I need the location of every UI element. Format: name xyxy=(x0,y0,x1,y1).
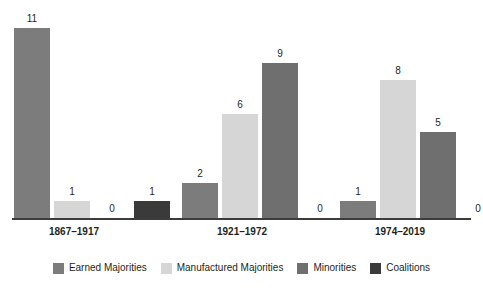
bar-value-label: 6 xyxy=(222,100,258,110)
legend-label: Manufactured Majorities xyxy=(177,262,284,274)
bar[interactable] xyxy=(420,132,456,218)
bar-value-label: 1 xyxy=(340,187,376,197)
bar[interactable] xyxy=(340,201,376,218)
bar-value-label: 1 xyxy=(134,187,170,197)
bar-slot: 5 xyxy=(420,0,456,218)
bar-slot: 0 xyxy=(460,0,483,218)
legend-item-0[interactable]: Earned Majorities xyxy=(53,262,147,274)
bar-value-label: 0 xyxy=(460,204,483,214)
bar-slot: 11 xyxy=(14,0,50,218)
legend-swatch-icon xyxy=(370,263,381,274)
bar-value-label: 0 xyxy=(94,204,130,214)
legend-swatch-icon xyxy=(161,263,172,274)
bar-value-label: 0 xyxy=(302,204,338,214)
bar-value-label: 1 xyxy=(54,187,90,197)
legend-item-2[interactable]: Minorities xyxy=(297,262,356,274)
bar-slot: 1 xyxy=(134,0,170,218)
legend-swatch-icon xyxy=(53,263,64,274)
x-axis-label-1: 1921–1972 xyxy=(182,226,302,238)
legend-label: Minorities xyxy=(313,262,356,274)
bar-slot: 0 xyxy=(302,0,338,218)
bar[interactable] xyxy=(380,80,416,218)
legend-item-3[interactable]: Coalitions xyxy=(370,262,430,274)
legend-label: Coalitions xyxy=(386,262,430,274)
bar[interactable] xyxy=(182,183,218,218)
bar-value-label: 9 xyxy=(262,49,298,59)
bar[interactable] xyxy=(54,201,90,218)
bar-slot: 8 xyxy=(380,0,416,218)
bar-slot: 2 xyxy=(182,0,218,218)
x-axis-line xyxy=(12,218,471,220)
chart-legend: Earned MajoritiesManufactured Majorities… xyxy=(0,258,483,278)
bar-slot: 9 xyxy=(262,0,298,218)
bar-slot: 0 xyxy=(94,0,130,218)
bar-slot: 1 xyxy=(340,0,376,218)
bar-slot: 6 xyxy=(222,0,258,218)
bar-group: 2690 xyxy=(182,0,342,218)
bar-group: 1850 xyxy=(340,0,483,218)
bar-value-label: 2 xyxy=(182,169,218,179)
bar[interactable] xyxy=(14,28,50,218)
bar-group: 11101 xyxy=(14,0,174,218)
grouped-bar-chart: 1110126901850 1867–1917 1921–1972 1974–2… xyxy=(0,0,483,288)
legend-item-1[interactable]: Manufactured Majorities xyxy=(161,262,284,274)
bar-value-label: 11 xyxy=(14,14,50,24)
bar-value-label: 8 xyxy=(380,66,416,76)
plot-area: 1110126901850 1867–1917 1921–1972 1974–2… xyxy=(0,0,483,222)
x-axis-label-2: 1974–2019 xyxy=(340,226,460,238)
bar[interactable] xyxy=(262,63,298,218)
bar-groups: 1110126901850 xyxy=(0,0,483,218)
bar-value-label: 5 xyxy=(420,118,456,128)
legend-swatch-icon xyxy=(297,263,308,274)
bar[interactable] xyxy=(222,114,258,218)
x-axis-label-0: 1867–1917 xyxy=(14,226,134,238)
bar-slot: 1 xyxy=(54,0,90,218)
bar[interactable] xyxy=(134,201,170,218)
legend-label: Earned Majorities xyxy=(69,262,147,274)
